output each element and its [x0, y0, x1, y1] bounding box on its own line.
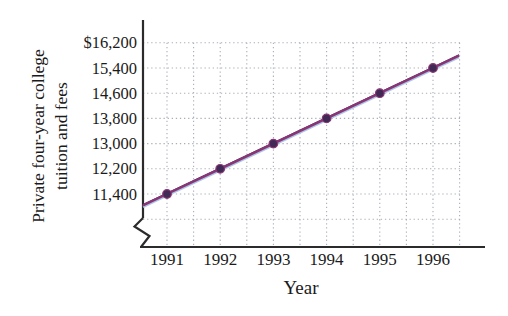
data-point-1994 — [322, 114, 331, 123]
line-print-offset — [143, 57, 459, 207]
y-axis-title: Private four-year college tuition and fe… — [27, 49, 73, 223]
x-tick-label: 1992 — [203, 250, 237, 269]
y-tick-label: $16,200 — [83, 33, 137, 52]
y-tick-label: 12,200 — [92, 159, 137, 178]
y-axis-title-line2: tuition and fees — [50, 49, 73, 223]
tuition-line-chart: $16,20015,40014,60013,80013,00012,20011,… — [0, 0, 508, 316]
data-point-1993 — [269, 139, 278, 148]
y-tick-labels: $16,20015,40014,60013,80013,00012,20011,… — [83, 33, 137, 203]
y-tick-label: 13,000 — [92, 134, 137, 153]
x-tick-label: 1995 — [363, 250, 397, 269]
y-axis-title-line1: Private four-year college — [27, 49, 50, 223]
x-tick-label: 1991 — [150, 250, 184, 269]
x-tick-label: 1994 — [310, 250, 345, 269]
data-point-1996 — [429, 64, 438, 73]
x-tick-label: 1993 — [256, 250, 290, 269]
grid-lines — [143, 43, 461, 246]
tuition-line — [143, 56, 459, 206]
data-point-1995 — [376, 89, 385, 98]
x-axis-title: Year — [283, 277, 318, 299]
data-point-1992 — [216, 165, 225, 174]
data-line — [143, 55, 459, 207]
y-tick-label: 13,800 — [92, 109, 137, 128]
x-tick-label: 1996 — [416, 250, 450, 269]
y-tick-label: 11,400 — [92, 185, 137, 204]
y-axis-break-icon — [135, 218, 150, 247]
y-tick-label: 15,400 — [92, 59, 137, 78]
y-tick-label: 14,600 — [92, 84, 137, 103]
data-point-1991 — [163, 190, 172, 199]
x-tick-labels: 199119921993199419951996 — [150, 250, 450, 269]
tuition-chart-figure: $16,20015,40014,60013,80013,00012,20011,… — [0, 0, 508, 316]
